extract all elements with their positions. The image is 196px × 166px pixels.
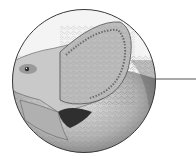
dinosaur-illustration	[0, 0, 196, 166]
illustration-body	[0, 0, 196, 166]
